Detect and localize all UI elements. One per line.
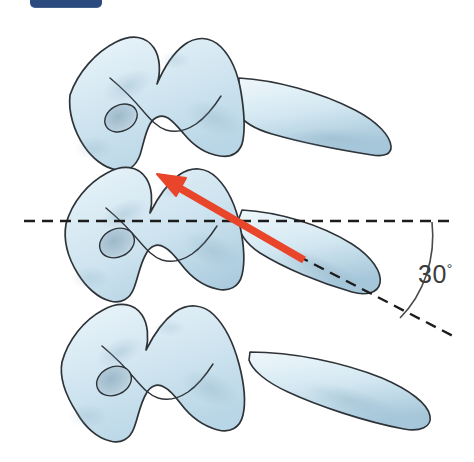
vertebrae-illustration	[0, 0, 474, 462]
lower-vertebra	[61, 304, 430, 441]
angle-label: 30°	[418, 260, 453, 289]
figure-canvas: 30°	[0, 0, 474, 462]
angle-value: 30	[418, 260, 447, 288]
figure-number-badge	[30, 0, 102, 8]
upper-vertebra	[70, 37, 391, 170]
middle-vertebra	[65, 167, 380, 301]
degree-symbol: °	[447, 261, 453, 277]
